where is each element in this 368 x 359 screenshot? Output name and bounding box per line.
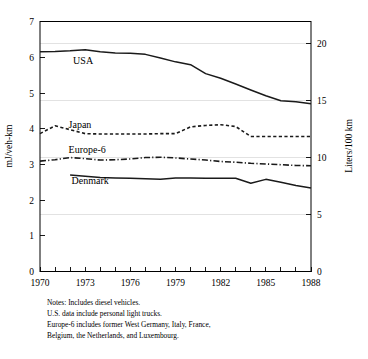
series-labels: USAJapanEurope-6Denmark (69, 55, 109, 186)
series-label-usa: USA (73, 55, 94, 66)
xtick-label: 1976 (121, 278, 140, 288)
y2tick-label: 10 (317, 153, 327, 163)
note-line: Belgium, the Netherlands, and Luxembourg… (47, 331, 179, 340)
series-label-europe-6: Europe-6 (69, 144, 106, 155)
note-line: Notes: Includes diesel vehicles. (47, 298, 140, 307)
ytick-label: 0 (29, 267, 34, 277)
ytick-label: 4 (29, 124, 34, 134)
xtick-label: 1985 (256, 278, 275, 288)
xtick-label: 1973 (76, 278, 95, 288)
ytick-label: 3 (29, 160, 34, 170)
xtick-label: 1979 (166, 278, 185, 288)
ytick-label: 5 (29, 89, 34, 99)
fuel-economy-line-chart: 7 6 5 4 3 2 1 0 20 15 10 5 0 19701973197… (0, 0, 368, 359)
notes-block: Notes: Includes diesel vehicles. U.S. da… (47, 298, 211, 340)
ytick-label: 2 (29, 196, 34, 206)
xtick-label: 1982 (211, 278, 230, 288)
y2tick-label: 0 (317, 267, 322, 277)
ytick-label: 1 (29, 231, 34, 241)
series-label-japan: Japan (69, 119, 92, 130)
y2tick-label: 15 (317, 96, 327, 106)
series-line-europe-6 (40, 157, 311, 166)
left-tick-labels: 7 6 5 4 3 2 1 0 (29, 17, 34, 277)
right-axis-ticks (306, 43, 311, 271)
x-tick-labels: 1970197319761979198219851988 (31, 278, 321, 288)
y2-axis-title: Liters/100 km (344, 119, 354, 173)
left-axis-ticks (40, 22, 45, 272)
ytick-label: 6 (29, 53, 34, 63)
series-label-denmark: Denmark (72, 175, 109, 186)
note-line: U.S. data include personal light trucks. (47, 309, 162, 318)
xtick-label: 1988 (302, 278, 321, 288)
right-tick-labels: 20 15 10 5 0 (317, 39, 327, 277)
x-axis-ticks (40, 267, 311, 272)
y2tick-label: 20 (317, 39, 327, 49)
y-axis-title: mJ/veh-km (4, 124, 14, 167)
ytick-label: 7 (29, 17, 34, 27)
note-line: Europe-6 includes former West Germany, I… (47, 320, 211, 329)
xtick-label: 1970 (31, 278, 50, 288)
y2tick-label: 5 (317, 210, 322, 220)
